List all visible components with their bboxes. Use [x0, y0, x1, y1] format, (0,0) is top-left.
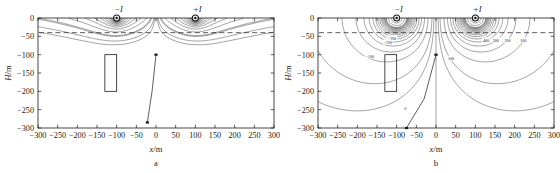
- contour-line: [318, 18, 434, 111]
- x-tick-label: 100: [469, 131, 481, 140]
- contour-label: −100: [365, 54, 376, 59]
- current-source: +I: [192, 5, 202, 21]
- y-tick-label: 0: [310, 14, 314, 23]
- x-axis-title: x/m: [429, 144, 443, 154]
- source-label: +I: [193, 5, 203, 14]
- x-tick-label: −250: [329, 131, 346, 140]
- borehole-trace: [147, 55, 156, 123]
- contour-label: 400: [482, 37, 490, 42]
- y-tick-label: −300: [297, 124, 314, 133]
- x-tick-label: 100: [189, 131, 201, 140]
- x-tick-label: −200: [69, 131, 86, 140]
- x-tick-label: −200: [349, 131, 366, 140]
- figure-container: −300−250−200−150−100−5005010015020025030…: [0, 0, 560, 173]
- panel-b: −300−250−200−150−100−5005010015020025030…: [280, 0, 560, 173]
- source-dot-icon: [115, 17, 118, 20]
- panel-a: −300−250−200−150−100−5005010015020025030…: [0, 0, 280, 173]
- y-axis-title: H/m: [3, 65, 13, 82]
- y-tick-label: −250: [297, 106, 314, 115]
- y-tick-label: −150: [17, 69, 34, 78]
- y-axis-title: H/m: [283, 65, 293, 82]
- contour-label-text: 0: [404, 106, 406, 111]
- x-tick-label: 0: [434, 131, 438, 140]
- x-tick-label: 50: [452, 131, 460, 140]
- contour-label-text: −100: [366, 54, 374, 59]
- contour-label-text: −200: [384, 40, 392, 45]
- x-tick-label: 200: [229, 131, 241, 140]
- y-tick-label: −50: [301, 32, 314, 41]
- y-tick-label: −200: [17, 87, 34, 96]
- x-tick-label: 150: [209, 131, 221, 140]
- x-tick-label: −100: [108, 131, 125, 140]
- borehole-trace: [407, 55, 437, 128]
- contour-label: 200: [503, 38, 511, 43]
- source-label: +I: [473, 5, 483, 14]
- contour-label: −200: [383, 40, 394, 45]
- contour-label: 0: [404, 106, 408, 111]
- y-tick-label: −100: [17, 51, 34, 60]
- contour-group: [38, 18, 274, 45]
- panel-a-svg: −300−250−200−150−100−5005010015020025030…: [0, 0, 280, 173]
- x-tick-label: −150: [369, 131, 386, 140]
- contour-label: 100: [447, 56, 455, 61]
- source-label: −I: [114, 5, 124, 14]
- y-tick-label: −50: [21, 32, 34, 41]
- source-dot-icon: [194, 17, 197, 20]
- borehole-marker: [154, 54, 157, 56]
- borehole-marker: [434, 54, 437, 56]
- borehole-marker: [146, 121, 149, 123]
- y-tick-label: −200: [297, 87, 314, 96]
- contour-line: [438, 18, 554, 111]
- x-tick-label: 300: [268, 131, 280, 140]
- x-tick-label: 0: [154, 131, 158, 140]
- contour-label-text: 100: [448, 56, 454, 61]
- x-tick-label: −250: [49, 131, 66, 140]
- y-tick-label: −150: [297, 69, 314, 78]
- source-label: −I: [394, 5, 404, 14]
- contour-label-text: 100: [520, 38, 526, 43]
- source-dot-icon: [395, 17, 398, 20]
- x-tick-label: 200: [509, 131, 521, 140]
- y-tick-label: −250: [17, 106, 34, 115]
- panel-b-svg: −300−250−200−150−100−5005010015020025030…: [280, 0, 560, 173]
- x-tick-label: −150: [89, 131, 106, 140]
- source-dot-icon: [474, 17, 477, 20]
- plot-frame: [38, 18, 274, 128]
- x-tick-label: 250: [248, 131, 260, 140]
- y-tick-label: −300: [17, 124, 34, 133]
- contour-label: 300: [492, 37, 500, 42]
- current-source: −I: [394, 5, 404, 21]
- contour-label-text: 300: [493, 38, 499, 43]
- x-tick-label: −100: [388, 131, 405, 140]
- x-tick-label: 50: [172, 131, 180, 140]
- current-source: +I: [472, 5, 482, 21]
- x-tick-label: 300: [548, 131, 560, 140]
- contour-label: 100: [519, 37, 527, 42]
- x-tick-label: −50: [130, 131, 143, 140]
- borehole-marker: [405, 127, 408, 129]
- x-axis-title: x/m: [149, 144, 163, 154]
- contour-group: [318, 18, 554, 128]
- y-tick-label: 0: [30, 14, 34, 23]
- x-tick-label: 250: [528, 131, 540, 140]
- anomalous-body-rect: [105, 55, 117, 92]
- panel-caption: a: [154, 158, 158, 168]
- x-tick-label: 150: [489, 131, 501, 140]
- panel-caption: b: [434, 158, 438, 168]
- contour-label-text: 400: [483, 38, 489, 43]
- anomalous-body-rect: [385, 55, 397, 92]
- contour-label-text: 200: [505, 38, 511, 43]
- y-tick-label: −100: [297, 51, 314, 60]
- x-tick-label: −50: [410, 131, 423, 140]
